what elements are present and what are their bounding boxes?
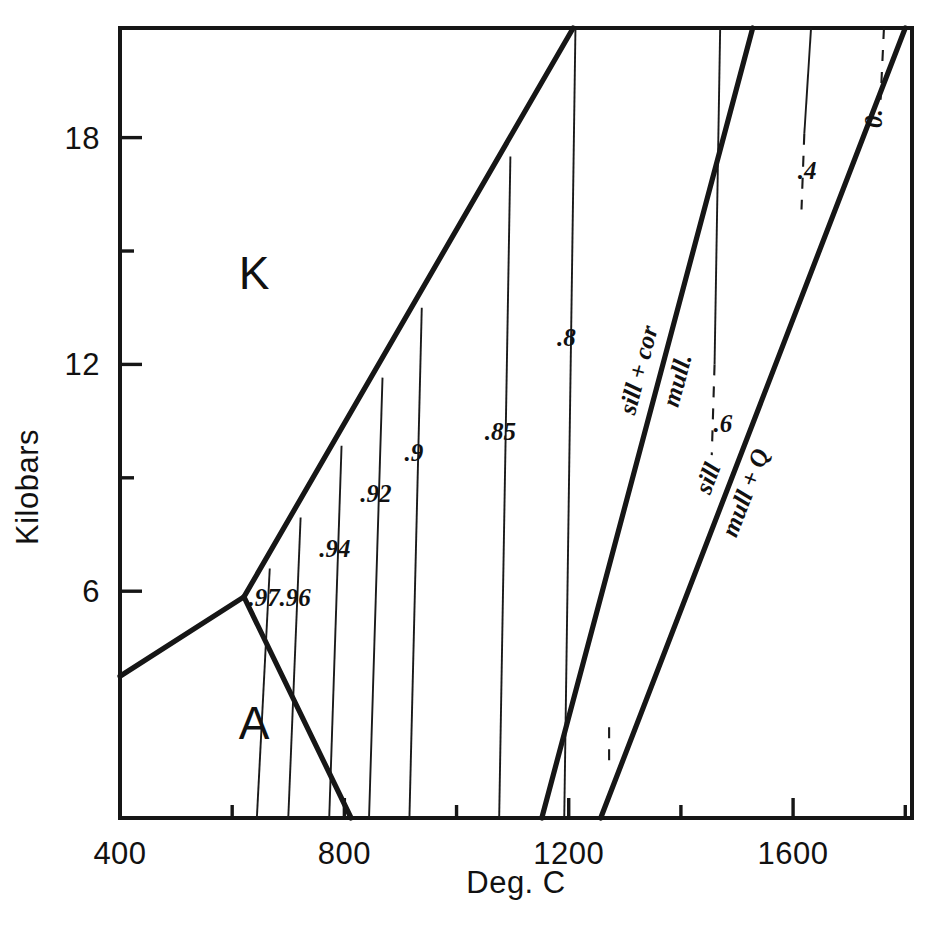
phase-boundary-kyanite-sillimanite [244, 28, 573, 597]
x-tick-label: 400 [93, 836, 146, 871]
contour-lines-group [257, 28, 884, 818]
contour-label: .85 [485, 418, 516, 445]
contour-label: 0. [860, 109, 887, 128]
contour-label: .96 [279, 584, 311, 611]
region-labels-group: KA [239, 247, 271, 749]
y-tick-label: 6 [82, 574, 100, 609]
phase-diagram-figure: .97.96.94.92.9.85.8.6.40. sill + cormull… [0, 0, 930, 941]
curve-label: sill + cor [613, 322, 663, 418]
contour-label: .92 [360, 480, 391, 507]
contour-line [329, 446, 341, 818]
contour-line [288, 517, 300, 818]
contour-line [369, 378, 382, 818]
x-tick-label: 800 [318, 836, 371, 871]
phase-diagram-svg: .97.96.94.92.9.85.8.6.40. sill + cormull… [0, 0, 930, 941]
contour-label: .6 [714, 410, 733, 437]
region-label-andalusite-field: A [239, 697, 271, 749]
y-tick-label: 18 [65, 121, 100, 156]
y-axis-title: Kilobars [10, 429, 45, 545]
contour-label: .4 [798, 157, 817, 184]
contour-label: .97 [249, 584, 282, 611]
contour-line [499, 157, 510, 818]
phase-boundary-kyanite-andalusite [120, 597, 244, 676]
x-axis-ticks [120, 798, 905, 818]
y-tick-label: 12 [65, 347, 100, 382]
curve-label: sill [689, 459, 726, 498]
contour-line [409, 308, 421, 818]
x-axis-title: Deg. C [466, 865, 565, 900]
y-axis-ticks [120, 138, 142, 592]
x-tick-label: 1600 [758, 836, 829, 871]
region-label-kyanite-field: K [239, 247, 271, 299]
contour-label: .9 [405, 439, 424, 466]
contour-label: .8 [557, 324, 576, 351]
contour-line [804, 28, 811, 134]
contour-line [715, 28, 721, 364]
contour-label: .94 [319, 535, 350, 562]
